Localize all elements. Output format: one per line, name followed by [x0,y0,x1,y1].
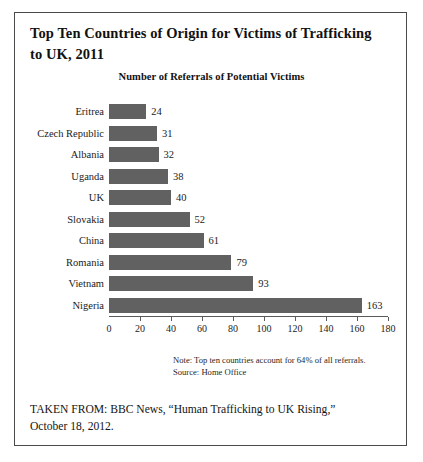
x-axis-tick [357,317,358,321]
page-title: Top Ten Countries of Origin for Victims … [30,23,382,64]
bar-fill [109,190,171,205]
bar-category-label: Albania [15,144,104,166]
x-axis-tick [140,317,141,321]
bar-row: Nigeria163 [15,295,408,317]
x-axis-line [109,316,388,317]
bar-category-label: Eritrea [15,101,104,123]
bar-category-label: Nigeria [15,295,104,317]
bar-value-label: 40 [171,187,187,209]
caption-line-1: TAKEN FROM: BBC News, “Human Trafficking… [30,401,388,418]
figure-caption: TAKEN FROM: BBC News, “Human Trafficking… [30,401,388,436]
bar-category-label: UK [15,187,104,209]
bar-category-label: Romania [15,252,104,274]
bar-fill [109,276,253,291]
bar-row: Slovakia52 [15,209,408,231]
x-axis-tick [264,317,265,321]
bar-category-label: Vietnam [15,273,104,295]
bar-fill [109,298,362,313]
bar-value-label: 93 [253,273,269,295]
x-axis: 020406080100120140160180 [109,316,388,346]
bar-row: China61 [15,230,408,252]
bar-fill [109,255,231,270]
bar-value-label: 24 [146,101,162,123]
bar-row: Uganda38 [15,166,408,188]
bar-track: 52 [109,209,388,231]
caption-line-2: October 18, 2012. [30,418,388,435]
bar-value-label: 31 [157,123,173,145]
x-axis-tick [295,317,296,321]
bar-track: 31 [109,123,388,145]
bar-value-label: 61 [204,230,220,252]
bar-track: 24 [109,101,388,123]
bar-row: Vietnam93 [15,273,408,295]
bar-value-label: 52 [190,209,206,231]
bar-category-label: Slovakia [15,209,104,231]
bar-track: 61 [109,230,388,252]
x-axis-tick [326,317,327,321]
source-text: Source: Home Office [173,367,401,379]
x-axis-tick [388,317,389,321]
bar-track: 32 [109,144,388,166]
x-axis-tick [171,317,172,321]
bar-track: 93 [109,273,388,295]
bar-track: 38 [109,166,388,188]
figure-box: Top Ten Countries of Origin for Victims … [14,12,407,446]
x-axis-tick-label: 180 [368,323,408,334]
x-axis-tick [233,317,234,321]
bar-row: Romania79 [15,252,408,274]
bar-fill [109,233,204,248]
bar-fill [109,169,168,184]
bar-value-label: 79 [231,252,247,274]
bar-category-label: China [15,230,104,252]
bar-row: Czech Republic31 [15,123,408,145]
bar-row: Eritrea24 [15,101,408,123]
bar-track: 79 [109,252,388,274]
chart-area: Number of Referrals of Potential Victims… [15,71,408,351]
bar-chart-plot: Eritrea24Czech Republic31Albania32Uganda… [15,101,408,351]
chart-note: Note: Top ten countries account for 64% … [173,355,401,379]
bar-row: Albania32 [15,144,408,166]
chart-subtitle: Number of Referrals of Potential Victims [15,71,408,82]
bar-track: 163 [109,295,388,317]
x-axis-tick [202,317,203,321]
bar-value-label: 32 [159,144,175,166]
bar-row: UK40 [15,187,408,209]
bar-rows: Eritrea24Czech Republic31Albania32Uganda… [15,101,408,316]
bar-value-label: 38 [168,166,184,188]
bar-fill [109,104,146,119]
bar-category-label: Uganda [15,166,104,188]
bar-category-label: Czech Republic [15,123,104,145]
note-text: Note: Top ten countries account for 64% … [173,355,401,367]
bar-value-label: 163 [362,295,383,317]
bar-fill [109,147,159,162]
bar-track: 40 [109,187,388,209]
bar-fill [109,212,190,227]
bar-fill [109,126,157,141]
